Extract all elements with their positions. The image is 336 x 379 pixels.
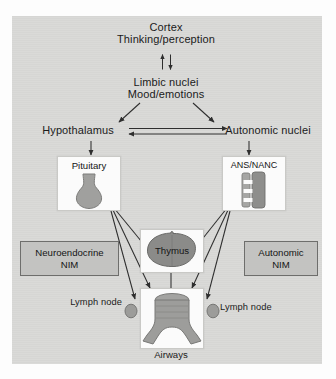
pituitary-gland-icon: [58, 171, 120, 209]
node-hypothalamus: Hypothalamus: [26, 124, 130, 136]
autonomic-nim-box: Autonomic NIM: [244, 241, 318, 276]
thymus-label: Thymus: [141, 245, 203, 256]
ans-nanc-label: ANS/NANC: [223, 160, 285, 170]
edge-ans-lymph-right: [207, 211, 230, 299]
neuroendocrine-nim-line2: NIM: [35, 259, 103, 270]
limbic-title: Limbic nuclei: [86, 76, 246, 88]
neuroendocrine-nim-box: Neuroendocrine NIM: [20, 241, 119, 276]
edge-limbic-autonomic: [193, 103, 214, 122]
cortex-subtitle: Thinking/perception: [86, 33, 246, 45]
cortex-title: Cortex: [86, 21, 246, 33]
card-pituitary: Pituitary: [57, 156, 121, 211]
lymph-node-left-icon: [123, 303, 139, 319]
neuroendocrine-nim-line1: Neuroendocrine: [35, 247, 103, 258]
lymph-node-left-label: Lymph node: [62, 297, 122, 307]
figure-canvas: Cortex Thinking/perception Limbic nuclei…: [0, 0, 336, 379]
pituitary-label: Pituitary: [58, 160, 120, 171]
node-autonomic-nuclei: Autonomic nuclei: [212, 124, 324, 136]
nerve-trunk-icon: [223, 171, 285, 209]
autonomic-nim-line1: Autonomic: [258, 247, 303, 258]
node-cortex: Cortex Thinking/perception: [86, 21, 246, 46]
trachea-bronchi-icon: [141, 289, 203, 348]
limbic-subtitle: Mood/emotions: [86, 88, 246, 100]
lymph-node-right-label: Lymph node: [220, 302, 284, 312]
airways-label: Airways: [140, 349, 202, 360]
node-limbic: Limbic nuclei Mood/emotions: [86, 76, 246, 101]
card-thymus: Thymus: [140, 229, 204, 273]
edge-limbic-hypothalamus: [119, 103, 140, 122]
autonomic-nim-line2: NIM: [258, 259, 303, 270]
card-airways: [140, 288, 204, 349]
card-ans-nanc: ANS/NANC: [222, 156, 286, 211]
lymph-node-right-icon: [205, 303, 221, 319]
